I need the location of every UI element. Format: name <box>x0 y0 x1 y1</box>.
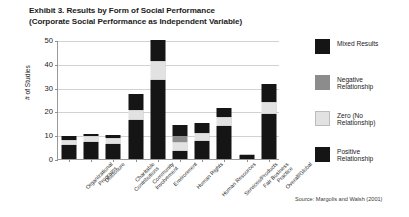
legend-swatch-negative-relationship <box>315 75 330 90</box>
bar-segment-positive-relationship <box>62 145 77 159</box>
legend-label-zero-relationship: Zero (NoRelationship) <box>337 111 375 127</box>
bar-environment[interactable] <box>150 40 165 159</box>
bar-slot <box>213 41 235 159</box>
chart-title-line-1: Exhibit 3. Results by Form of Social Per… <box>29 5 359 16</box>
bar-segment-mixed-results <box>150 40 165 61</box>
bar-segment-zero-no-relationship- <box>173 142 188 150</box>
legend-item-positive-relationship[interactable]: PositiveRelationship <box>315 147 373 163</box>
bar-segment-positive-relationship <box>84 142 99 159</box>
bar-slot <box>169 41 191 159</box>
bar-human-rights[interactable] <box>173 125 188 159</box>
bar-segment-zero-no-relationship- <box>261 102 276 114</box>
bar-segment-zero-no-relationship- <box>150 61 165 80</box>
bar-slot <box>258 41 280 159</box>
bar-slot <box>147 41 169 159</box>
bar-slot <box>236 41 258 159</box>
legend-item-mixed-results[interactable]: Mixed Results <box>315 39 378 54</box>
bar-segment-positive-relationship <box>195 141 210 159</box>
bar-human-resources[interactable] <box>195 123 210 159</box>
legend-label-positive-relationship: PositiveRelationship <box>337 147 373 163</box>
bar-group <box>58 41 279 159</box>
legend-label-mixed-results: Mixed Results <box>337 39 378 47</box>
legend-item-zero-relationship[interactable]: Zero (NoRelationship) <box>315 111 375 127</box>
bar-organizational-programs[interactable] <box>62 136 77 159</box>
bar-segment-positive-relationship <box>128 120 143 159</box>
bar-segment-mixed-results <box>261 84 276 102</box>
bar-segment-positive-relationship <box>217 126 232 159</box>
exhibit-chart: Exhibit 3. Results by Form of Social Per… <box>0 0 409 217</box>
bar-segment-mixed-results <box>128 94 143 111</box>
bar-overall-global[interactable] <box>261 84 276 159</box>
bar-services-products[interactable] <box>217 108 232 159</box>
y-tick-label-20: 20 <box>45 109 53 117</box>
plot-area: 01020304050 <box>57 41 279 160</box>
bar-segment-zero-no-relationship- <box>195 133 210 141</box>
x-axis-label-human-rights: Human Rights <box>195 161 224 190</box>
legend-swatch-positive-relationship <box>315 147 330 162</box>
bar-slot <box>191 41 213 159</box>
bar-segment-positive-relationship <box>150 80 165 159</box>
legend-item-negative-relationship[interactable]: NegativeRelationship <box>315 75 373 91</box>
x-axis-labels: OrganizationalProgramsDisclosureCharitab… <box>57 161 279 215</box>
bar-segment-zero-no-relationship- <box>217 117 232 125</box>
bar-segment-positive-relationship <box>261 114 276 159</box>
bar-disclosure[interactable] <box>84 134 99 159</box>
bar-slot <box>58 41 80 159</box>
legend-swatch-mixed-results <box>315 39 330 54</box>
bar-charitable-contributions[interactable] <box>106 135 121 159</box>
source-note: Source: Margolis and Walsh (2001) <box>295 196 382 202</box>
chart-title-line-2: (Corporate Social Performance as Indepen… <box>29 16 359 27</box>
y-tick-label-30: 30 <box>45 85 53 93</box>
y-tick-label-10: 10 <box>45 132 53 140</box>
bar-slot <box>80 41 102 159</box>
bar-slot <box>102 41 124 159</box>
bar-slot <box>125 41 147 159</box>
bar-segment-zero-no-relationship- <box>128 110 143 120</box>
y-tick-label-50: 50 <box>45 37 53 45</box>
legend-swatch-zero-relationship <box>315 111 330 126</box>
y-tick-label-40: 40 <box>45 61 53 69</box>
bar-community-involvement[interactable] <box>128 94 143 159</box>
bar-segment-mixed-results <box>195 123 210 133</box>
bar-segment-mixed-results <box>217 108 232 118</box>
legend-label-negative-relationship: NegativeRelationship <box>337 75 373 91</box>
y-tick-label-0: 0 <box>49 156 53 164</box>
y-axis-label: # of Studies <box>24 65 31 100</box>
bar-segment-mixed-results <box>173 125 188 137</box>
bar-segment-positive-relationship <box>173 151 188 159</box>
bar-segment-positive-relationship <box>106 144 121 159</box>
chart-title: Exhibit 3. Results by Form of Social Per… <box>29 5 359 27</box>
